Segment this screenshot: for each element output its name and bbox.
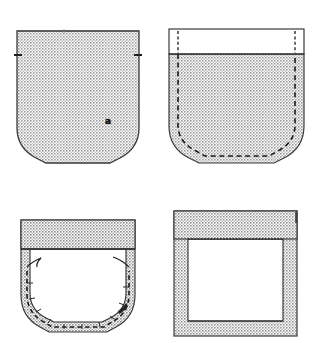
pocket-interior-d: [188, 239, 283, 321]
panel-a-label: a: [105, 117, 111, 126]
panel-a: a: [0, 0, 157, 171]
panel-c-drawing: [0, 171, 157, 343]
panel-a-drawing: [0, 0, 157, 171]
panel-b-drawing: [157, 0, 314, 171]
hem-band-b: [169, 29, 304, 54]
sewing-diagram-figure: a b: [0, 0, 314, 343]
panel-d-drawing: [157, 171, 314, 343]
hem-band-c: [21, 220, 135, 249]
pocket-interior-c: [30, 249, 126, 322]
hem-band-d: [174, 211, 297, 239]
panel-d: d: [157, 171, 314, 343]
pocket-body-a: [17, 31, 139, 163]
panel-b: b: [157, 0, 314, 171]
panel-c: c: [0, 171, 157, 343]
